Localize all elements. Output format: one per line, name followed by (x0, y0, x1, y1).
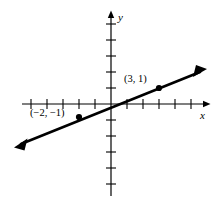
coordinate-plane-svg (0, 0, 217, 206)
graph-figure: y x (3, 1) (−2, −1) (0, 0, 217, 206)
line-arrowhead-left (14, 139, 28, 151)
x-axis-arrowhead (203, 101, 211, 107)
point-label-neg2-neg1: (−2, −1) (30, 108, 65, 119)
data-point-marker (76, 114, 82, 120)
line-arrowhead-right (193, 65, 207, 77)
y-axis-arrowhead (108, 11, 114, 19)
data-point-marker (156, 85, 162, 91)
y-axis-label: y (118, 12, 123, 23)
x-axis-label: x (200, 110, 205, 121)
point-label-3-1: (3, 1) (124, 74, 147, 85)
